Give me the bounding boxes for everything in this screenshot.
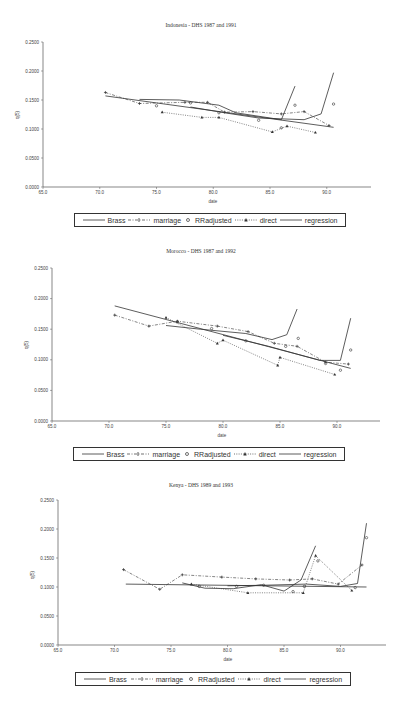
y-tick-label: 0.1500 (40, 556, 54, 561)
x-tick-label: 80.0 (223, 648, 232, 653)
legend-item-rradjusted: RRadjusted (187, 676, 235, 683)
rradjusted-point (317, 560, 319, 562)
plot-area: 0.00000.05000.10000.15000.20000.250065.0… (0, 0, 402, 680)
y-tick-label: 0.1000 (40, 585, 54, 590)
x-tick-label: 90.0 (336, 648, 345, 653)
legend-label: direct (263, 676, 280, 683)
legend-label: marriage (156, 676, 184, 683)
legend-label: RRadjusted (198, 676, 235, 683)
y-tick-label: 0.0500 (40, 614, 54, 619)
legend-label: Brass (109, 676, 127, 683)
y-tick-label: 0.2500 (40, 498, 54, 503)
direct-swatch-icon (238, 676, 260, 682)
chart-legend: BrassmarriageRRadjusteddirectregression (75, 672, 351, 686)
x-tick-label: 85.0 (280, 648, 289, 653)
legend-item-direct: direct (238, 676, 280, 683)
legend-item-marriage: marriage (131, 676, 184, 683)
x-axis-label: date (224, 657, 233, 662)
legend-item-brass: Brass (84, 676, 127, 683)
legend-item-regression: regression (284, 676, 342, 683)
marriage-swatch-icon (131, 676, 153, 682)
legend-label: regression (309, 676, 342, 683)
y-axis-label: q(5) (30, 571, 35, 580)
rradjusted-point (365, 537, 367, 539)
regression-swatch-icon (284, 676, 306, 682)
series-line-brass-1993- (228, 523, 367, 586)
x-tick-label: 70.0 (110, 648, 119, 653)
y-tick-label: 0.0000 (40, 643, 54, 648)
rradjusted-point (292, 590, 294, 592)
brass-swatch-icon (84, 676, 106, 682)
x-tick-label: 65.0 (54, 648, 63, 653)
x-tick-label: 75.0 (167, 648, 176, 653)
rradjusted-swatch-icon (187, 676, 195, 682)
y-tick-label: 0.2000 (40, 527, 54, 532)
